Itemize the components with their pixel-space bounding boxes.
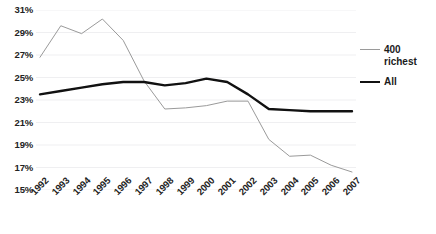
y-axis: 31%29%27%25%23%21%19%17%15% [0, 0, 36, 234]
legend-label: 400 richest [384, 44, 434, 67]
plot-svg [36, 10, 356, 190]
y-tick-label: 27% [15, 50, 33, 60]
series-line [40, 19, 352, 172]
y-tick-label: 17% [15, 163, 33, 173]
legend-swatch-400-richest [360, 45, 380, 55]
legend-entry[interactable]: All [360, 76, 436, 88]
chart-legend: 400 richestAll [360, 44, 436, 97]
y-tick-label: 21% [15, 118, 33, 128]
plot-area [36, 10, 356, 190]
y-tick-label: 19% [15, 140, 33, 150]
legend-entry[interactable]: 400 richest [360, 44, 436, 67]
gridlines [36, 10, 356, 190]
y-tick-label: 25% [15, 73, 33, 83]
legend-swatch-all [360, 77, 380, 87]
series-lines [40, 19, 352, 172]
x-axis: 1992199319941995199619971998199920002001… [36, 190, 356, 234]
y-tick-label: 23% [15, 95, 33, 105]
y-tick-label: 31% [15, 5, 33, 15]
legend-label: All [384, 76, 397, 88]
line-chart: 31%29%27%25%23%21%19%17%15% 199219931994… [0, 0, 436, 234]
y-tick-label: 29% [15, 28, 33, 38]
